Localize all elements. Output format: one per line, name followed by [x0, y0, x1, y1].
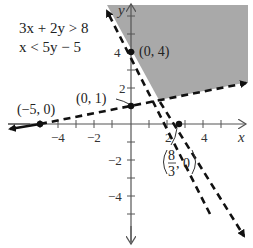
point-m5-0	[37, 121, 43, 127]
inequality-graph: −4 −2 2 4 4 2 −2 −4 x y (0, 4) (0, 1) (−…	[0, 0, 253, 248]
tick-y-m2: −2	[108, 153, 122, 168]
boundary-line-2	[40, 83, 246, 124]
boundary-line-2-left	[10, 124, 40, 129]
tick-y-2: 2	[119, 81, 126, 96]
tick-x-4: 4	[201, 130, 208, 145]
y-axis-label: y	[116, 2, 125, 18]
svg-text:, 0: , 0	[176, 156, 190, 171]
label-point-m5-0: (−5, 0)	[17, 102, 56, 118]
x-axis-label: x	[237, 129, 245, 145]
inequality-2: x < 5y − 5	[19, 39, 81, 56]
inequality-1: 3x + 2y > 8	[19, 20, 88, 37]
boundary-line-1-end	[200, 210, 246, 236]
tick-x-m2: −2	[87, 130, 101, 145]
label-point-8-3-0: 8 3 , 0	[164, 148, 196, 179]
label-point-0-4: (0, 4)	[139, 44, 170, 60]
tick-y-4: 4	[114, 45, 121, 60]
label-point-0-1: (0, 1)	[76, 91, 107, 107]
svg-text:3: 3	[168, 164, 175, 179]
tick-x-m4: −4	[51, 130, 65, 145]
tick-y-m4: −4	[108, 189, 122, 204]
point-0-4	[128, 49, 134, 55]
leader-0-1	[116, 99, 129, 104]
svg-text:8: 8	[168, 148, 175, 163]
point-8-3-0	[176, 121, 182, 127]
